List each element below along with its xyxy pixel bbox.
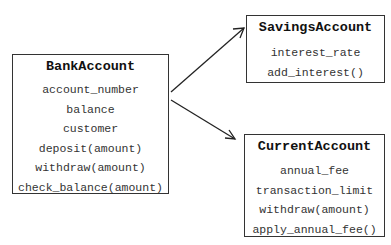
- class-box-savingsaccount: SavingsAccount interest_rate add_interes…: [246, 15, 385, 83]
- class-member: account_number: [13, 80, 168, 100]
- class-name: BankAccount: [13, 59, 168, 75]
- arrow-bank-to-current: [171, 100, 235, 139]
- class-member: add_interest(): [247, 63, 384, 83]
- class-member: transaction_limit: [245, 181, 384, 201]
- class-name: CurrentAccount: [245, 139, 384, 155]
- class-member: withdraw(amount): [245, 200, 384, 220]
- class-member: check_balance(amount): [13, 178, 168, 198]
- arrow-bank-to-savings: [171, 28, 244, 92]
- class-member: apply_annual_fee(): [245, 220, 384, 240]
- class-member: annual_fee: [245, 161, 384, 181]
- class-member: balance: [13, 100, 168, 120]
- class-member: interest_rate: [247, 43, 384, 63]
- class-member: customer: [13, 119, 168, 139]
- class-box-currentaccount: CurrentAccount annual_fee transaction_li…: [244, 134, 385, 237]
- class-box-bankaccount: BankAccount account_number balance custo…: [12, 54, 169, 194]
- class-name: SavingsAccount: [247, 20, 384, 36]
- class-member: withdraw(amount): [13, 158, 168, 178]
- class-member: deposit(amount): [13, 139, 168, 159]
